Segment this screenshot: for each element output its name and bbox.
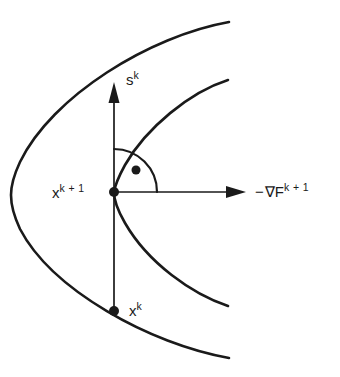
label-negative-gradient-base: F bbox=[275, 183, 284, 200]
s-k-arrowhead bbox=[109, 82, 120, 103]
label-previous-point-base: x bbox=[129, 302, 137, 319]
label-previous-point: xk bbox=[129, 303, 142, 318]
x-k-plus-1-point-marker bbox=[109, 187, 119, 197]
label-previous-point-exponent: k bbox=[137, 300, 143, 312]
figure-canvas: sk xk + 1 −∇Fk + 1 xk bbox=[0, 0, 340, 377]
label-current-point-exponent: k + 1 bbox=[60, 182, 85, 194]
inner-contour-curve bbox=[114, 80, 228, 306]
label-current-point-base: x bbox=[52, 184, 60, 201]
x-k-point-marker bbox=[109, 306, 119, 316]
label-current-point: xk + 1 bbox=[52, 185, 85, 200]
label-search-direction-base: s bbox=[126, 71, 134, 88]
minus-sign: − bbox=[255, 183, 265, 200]
nabla-icon: ∇ bbox=[265, 183, 275, 200]
label-negative-gradient: −∇Fk + 1 bbox=[255, 184, 309, 199]
label-negative-gradient-exponent: k + 1 bbox=[284, 181, 309, 193]
label-search-direction: sk bbox=[126, 72, 139, 87]
outer-contour-curve bbox=[11, 22, 229, 358]
label-search-direction-exponent: k bbox=[134, 69, 140, 81]
right-angle-marker-dot bbox=[132, 166, 141, 175]
negative-gradient-arrowhead bbox=[226, 186, 246, 198]
